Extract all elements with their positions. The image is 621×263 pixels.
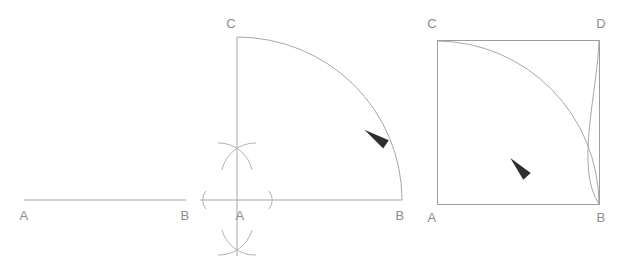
arrow-on-arc-panel2 bbox=[362, 126, 389, 149]
square-acdb bbox=[438, 41, 600, 205]
arrow-on-arc-panel3 bbox=[507, 155, 531, 180]
panel-given-segment: A B bbox=[20, 200, 190, 223]
label-c-panel3: C bbox=[427, 16, 437, 31]
arc-from-c-to-b bbox=[438, 41, 599, 204]
quarter-arc-c-to-b bbox=[237, 37, 402, 200]
panel-perpendicular-and-arc: C A B bbox=[200, 16, 404, 256]
construction-figure: A B C A bbox=[0, 0, 621, 263]
label-a-panel1: A bbox=[20, 208, 29, 223]
label-b-panel2: B bbox=[396, 208, 405, 223]
label-d-panel3: D bbox=[596, 16, 606, 31]
panel-completed-square: C D A B bbox=[427, 16, 606, 225]
label-c-panel2: C bbox=[226, 16, 236, 31]
label-a-panel2: A bbox=[236, 208, 245, 223]
label-b-panel3: B bbox=[597, 210, 606, 225]
diagram-canvas: A B C A bbox=[0, 0, 621, 263]
label-b-panel1: B bbox=[181, 208, 190, 223]
label-a-panel3: A bbox=[428, 210, 437, 225]
